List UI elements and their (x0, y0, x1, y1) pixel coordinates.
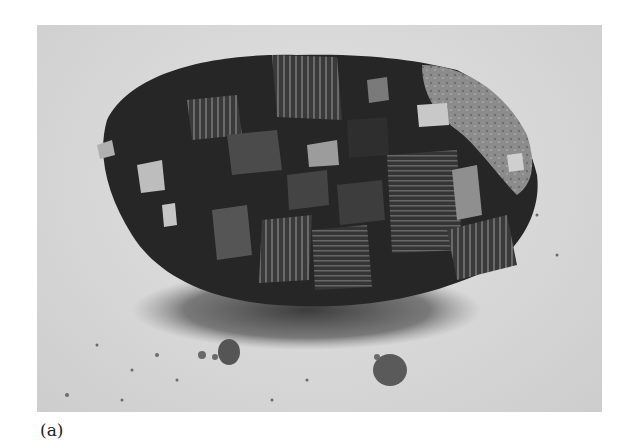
crystal-highlight (367, 77, 389, 103)
crystal-highlight (452, 165, 482, 220)
crystal-face (337, 180, 385, 225)
mineral-specimen-image (37, 25, 602, 412)
crystal-face (187, 95, 242, 140)
figure-label: (a) (40, 420, 63, 440)
mineral-photograph (37, 25, 602, 412)
crystal-highlight (417, 103, 449, 127)
crystal-face (312, 225, 372, 290)
crystal-highlight (162, 203, 177, 227)
crystal-face (347, 117, 389, 158)
crystal-face (287, 170, 329, 210)
crystal-face (259, 215, 312, 283)
crystal-face (212, 205, 252, 260)
crystal-face (227, 130, 282, 175)
crystal-face (272, 55, 342, 120)
crystal-highlight (137, 160, 165, 193)
crystal-highlight (507, 153, 524, 172)
